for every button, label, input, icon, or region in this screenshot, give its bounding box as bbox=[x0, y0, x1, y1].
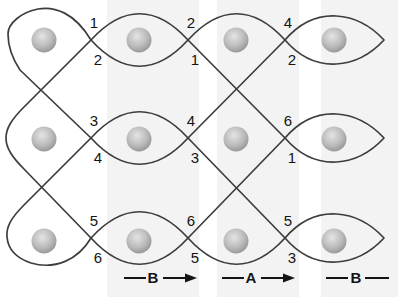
thread-loop-row1-left bbox=[8, 8, 91, 138]
wire-node bbox=[127, 127, 152, 152]
crossing-number-above: 3 bbox=[90, 112, 98, 129]
crossing-number-below: 2 bbox=[94, 51, 102, 68]
crossing-number-above: 1 bbox=[90, 14, 98, 31]
crossing-number-above: 6 bbox=[284, 112, 292, 129]
direction-letter: B bbox=[148, 269, 159, 286]
scan-band bbox=[107, 0, 199, 297]
crossing-number-below: 2 bbox=[288, 51, 296, 68]
wire-node bbox=[127, 229, 152, 254]
crossing-number-above: 2 bbox=[187, 14, 195, 31]
weave-diagram-figure: 1 2 2 1 4 2 3 4 4 3 6 1 5 6 6 5 5 3 B A bbox=[0, 0, 398, 297]
wire-node bbox=[224, 127, 249, 152]
wire-node bbox=[322, 127, 347, 152]
wire-node bbox=[224, 229, 249, 254]
crossing-number-below: 1 bbox=[288, 149, 296, 166]
crossing-number-below: 4 bbox=[94, 149, 102, 166]
crossing-number-below: 5 bbox=[191, 249, 199, 266]
crossing-number-above: 5 bbox=[90, 212, 98, 229]
crossing-number-below: 3 bbox=[288, 249, 296, 266]
crossing-number-above: 4 bbox=[284, 14, 292, 31]
scan-bands bbox=[107, 0, 398, 297]
wire-node bbox=[322, 229, 347, 254]
crossing-number-above: 5 bbox=[284, 212, 292, 229]
wire-node bbox=[322, 28, 347, 53]
crossing-number-below: 1 bbox=[191, 51, 199, 68]
weave-diagram: 1 2 2 1 4 2 3 4 4 3 6 1 5 6 6 5 5 3 B A bbox=[0, 0, 398, 297]
wire-node bbox=[32, 127, 57, 152]
crossing-number-above: 6 bbox=[187, 212, 195, 229]
direction-letter: B bbox=[351, 269, 362, 286]
crossing-number-below: 3 bbox=[191, 149, 199, 166]
wire-node bbox=[224, 28, 249, 53]
wire-node bbox=[32, 229, 57, 254]
wire-node bbox=[127, 28, 152, 53]
crossing-number-below: 6 bbox=[94, 249, 102, 266]
crossing-number-above: 4 bbox=[187, 112, 195, 129]
direction-letter: A bbox=[246, 269, 257, 286]
wire-node bbox=[32, 28, 57, 53]
